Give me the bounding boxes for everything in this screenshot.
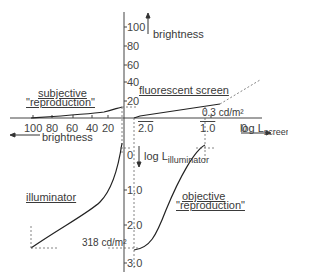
brightness-up-label: brightness — [153, 28, 204, 40]
tick-illum-0: 0 — [127, 149, 133, 161]
tick-h-20: 20 — [102, 122, 114, 134]
tick-illum-2: 2.0 — [127, 219, 142, 231]
tick-screen-1: 1.0 — [200, 122, 215, 134]
tick-screen-2: 2.0 — [138, 122, 153, 134]
screen-luminance-annotation: 0.3 cd/m² — [202, 107, 244, 119]
subjective-label-2: "reproduction" — [26, 96, 95, 108]
tick-illum-1: 1.0 — [127, 184, 142, 196]
illuminator-label: illuminator — [26, 191, 76, 203]
tick-h-100: 100 — [24, 122, 42, 134]
log-illuminator-label: log Lilluminator — [144, 150, 209, 163]
objective-label-2: "reproduction" — [176, 199, 245, 211]
tick-brightness-60: 60 — [127, 59, 139, 71]
log-illuminator-subscript: illuminator — [168, 155, 209, 165]
illuminator-luminance-annotation: 318 cd/m² — [82, 237, 126, 249]
log-screen-text: log L — [240, 122, 264, 134]
log-screen-subscript: screen — [264, 127, 288, 137]
tick-brightness-80: 80 — [127, 40, 139, 52]
tick-brightness-40: 40 — [127, 76, 139, 88]
tick-brightness-100: 100 — [127, 21, 145, 33]
brightness-left-label: brightness — [42, 131, 93, 143]
fluorescent-screen-label: fluorescent screen — [139, 84, 229, 96]
log-illuminator-text: log L — [144, 150, 168, 162]
tick-illum-3: 3.0 — [127, 257, 142, 269]
tick-brightness-20: 20 — [127, 95, 139, 107]
log-screen-label: log Lscreen — [240, 122, 288, 135]
